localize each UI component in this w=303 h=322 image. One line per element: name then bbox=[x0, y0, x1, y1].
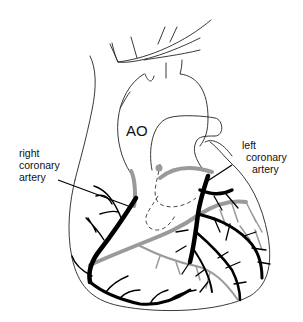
heart-diagram: AO right coronary artery l bbox=[0, 0, 303, 322]
right-coronary-label-line3: artery bbox=[19, 171, 47, 183]
carotid-vessel-1 bbox=[131, 37, 137, 58]
lca-circumflex bbox=[200, 190, 232, 194]
left-coronary-leader bbox=[206, 165, 232, 182]
superior-vena-cava-outline bbox=[75, 56, 95, 180]
great-vessels bbox=[75, 20, 211, 180]
left-coronary-label-line2: coronary bbox=[246, 151, 288, 163]
aorta-outline bbox=[180, 60, 208, 146]
right-coronary-label-line2: coronary bbox=[19, 159, 61, 171]
right-coronary-label: right coronary artery bbox=[19, 147, 61, 183]
brachiocephalic-vessel bbox=[110, 44, 118, 62]
lca-twigs bbox=[176, 194, 270, 292]
ductus-branches bbox=[145, 63, 166, 81]
ostium-marker bbox=[156, 165, 163, 172]
aorta-label: AO bbox=[126, 122, 148, 139]
left-coronary-label: left coronary artery bbox=[242, 139, 288, 175]
left-atrium-outline bbox=[205, 141, 232, 156]
carotid-vessel-2 bbox=[158, 27, 165, 44]
posterior-artery-ring bbox=[160, 168, 212, 178]
left-coronary-label-line3: artery bbox=[252, 163, 280, 175]
aortic-arch-top-outline bbox=[112, 20, 211, 62]
rca-marginal bbox=[90, 282, 190, 304]
pulmonary-artery-upper bbox=[144, 50, 200, 60]
subclavian-vessel bbox=[170, 27, 177, 42]
rca-main bbox=[89, 198, 136, 282]
right-coronary-label-line1: right bbox=[19, 147, 40, 159]
left-coronary-label-line1: left bbox=[242, 139, 256, 151]
right-coronary-leader bbox=[58, 180, 131, 207]
